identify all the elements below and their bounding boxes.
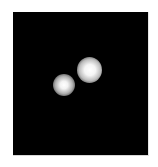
bright-spot-upper-right [77,57,102,83]
image-frame [13,12,149,156]
bright-spot-lower-left [53,74,75,96]
